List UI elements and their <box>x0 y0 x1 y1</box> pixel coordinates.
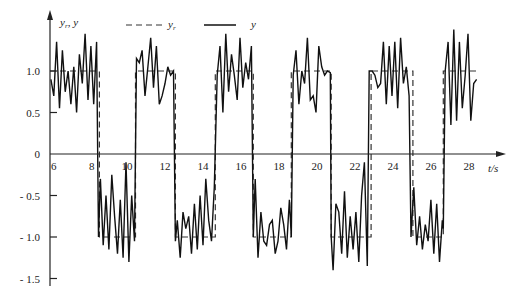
y-tick-label: - 1.5 <box>20 273 41 285</box>
chart: 1.00.50- 0.5- 1.0- 1.5 68101214161820222… <box>0 0 526 306</box>
x-tick-label: 10 <box>122 160 134 172</box>
y-axis-title: yr, y <box>59 16 78 30</box>
y-tick-label: - 1.0 <box>20 231 41 243</box>
y-tick-label: 0 <box>35 148 41 160</box>
x-tick-label: 12 <box>160 160 171 172</box>
y-tick-label: 1.0 <box>26 65 40 77</box>
x-tick-label: 20 <box>312 160 324 172</box>
x-axis-arrow-icon <box>496 151 506 157</box>
x-axis-title: t/s <box>488 162 498 174</box>
legend: yr y <box>126 18 256 32</box>
legend-label-y: y <box>250 18 256 30</box>
x-tick-label: 14 <box>198 160 210 172</box>
x-ticks: 6810121416182022242628 <box>51 160 475 172</box>
axes <box>47 10 506 286</box>
y-tick-label: - 0.5 <box>20 190 41 202</box>
x-tick-label: 28 <box>464 160 476 172</box>
x-tick-label: 26 <box>426 160 438 172</box>
y-ticks: 1.00.50- 0.5- 1.0- 1.5 <box>20 65 57 285</box>
legend-item-y: y <box>204 18 256 30</box>
x-tick-label: 8 <box>89 160 95 172</box>
y-axis-arrow-icon <box>47 10 53 20</box>
y-tick-label: 0.5 <box>26 107 40 119</box>
x-tick-label: 24 <box>388 160 400 172</box>
x-tick-label: 22 <box>350 160 361 172</box>
legend-item-yr: yr <box>126 18 176 32</box>
x-tick-label: 6 <box>51 160 57 172</box>
x-tick-label: 18 <box>274 160 286 172</box>
x-tick-label: 16 <box>236 160 248 172</box>
plot-area <box>50 30 478 271</box>
legend-label-yr: yr <box>167 18 176 32</box>
